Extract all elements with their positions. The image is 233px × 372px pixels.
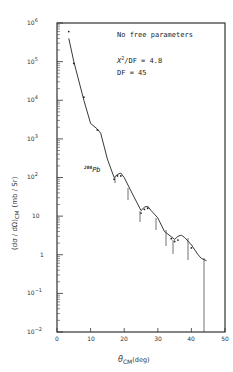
annotation-chi2: X2/DF = 4.8 (116, 55, 162, 65)
annotation-target-nucleus: 208Pb (83, 165, 101, 174)
x-tick-40: 40 (187, 335, 195, 342)
x-tick-labels: 0 10 20 30 40 50 (55, 335, 229, 342)
y-tick-labels: 106 105 104 103 102 10 1 10−1 10−2 (27, 17, 44, 335)
y-tick-1e4: 104 (27, 94, 38, 103)
y-tick-1e-2: 10−2 (27, 326, 42, 335)
y-tick-1e2: 102 (27, 171, 38, 180)
y-axis-label: (dσ / dΩ)CM(mb / Sr) (11, 176, 20, 250)
annotation-no-free-parameters: No free parameters (117, 31, 193, 39)
x-tick-20: 20 (120, 335, 128, 342)
y-tick-1: 1 (40, 251, 44, 258)
x-axis-label: θCM(deg) (118, 355, 150, 365)
x-tick-50: 50 (221, 335, 229, 342)
error-bars (115, 177, 204, 332)
y-tick-1e-1: 10−1 (27, 287, 42, 296)
y-tick-1e5: 105 (27, 56, 38, 65)
y-tick-10: 10 (32, 212, 40, 219)
x-tick-0: 0 (55, 335, 59, 342)
y-axis-ticks (57, 23, 63, 332)
x-tick-10: 10 (87, 335, 95, 342)
annotation-df: DF = 45 (117, 69, 147, 77)
y-tick-1e3: 103 (27, 133, 38, 142)
cross-section-chart: 106 105 104 103 102 10 1 10−1 10−2 0 10 … (0, 0, 233, 372)
x-tick-30: 30 (154, 335, 162, 342)
y-tick-1e6: 106 (27, 17, 38, 26)
